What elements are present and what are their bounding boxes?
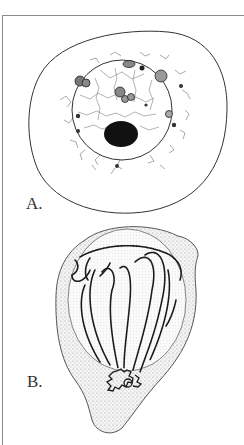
panel-b-cell — [56, 227, 198, 433]
chromatin-network — [78, 68, 159, 130]
panel-label-a: A. — [26, 194, 43, 214]
panel-label-b: B. — [27, 372, 43, 392]
panel-a-cell — [29, 31, 227, 213]
nucleolus — [104, 121, 138, 147]
